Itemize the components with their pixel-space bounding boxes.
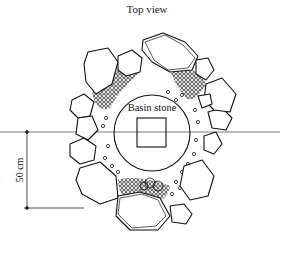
basin-stone-square (137, 118, 166, 147)
boulder-ring (70, 33, 236, 230)
basin-stone-label: Basin stone (128, 102, 177, 113)
dimension-label: 50 cm (14, 157, 25, 182)
top-view-drawing: 50 cm (0, 0, 294, 270)
